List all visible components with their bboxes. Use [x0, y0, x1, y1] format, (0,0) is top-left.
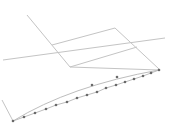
- data-point: [12, 120, 15, 123]
- data-point: [158, 69, 161, 72]
- data-point: [142, 75, 145, 78]
- data-point: [115, 84, 118, 87]
- wall-line: [2, 100, 13, 121]
- frame-lines: [3, 15, 165, 70]
- data-point: [66, 101, 69, 104]
- frame-line: [52, 28, 115, 45]
- frame-line: [3, 38, 165, 60]
- frame-line: [70, 67, 159, 70]
- data-point: [124, 81, 127, 84]
- frame-line: [115, 28, 159, 69]
- data-point: [133, 78, 136, 81]
- diagram-canvas: [0, 0, 174, 138]
- data-point: [34, 112, 37, 115]
- frame-line: [27, 15, 70, 67]
- wall-segment: [2, 100, 13, 121]
- data-point: [96, 91, 99, 94]
- data-point: [86, 94, 89, 97]
- wireframe-diagram: [0, 0, 174, 138]
- data-point: [105, 87, 108, 90]
- data-point: [76, 97, 79, 100]
- data-point: [45, 108, 48, 111]
- data-point: [23, 116, 26, 119]
- arc-point: [116, 76, 119, 79]
- lower-point-line: [12, 69, 161, 123]
- data-point: [150, 72, 153, 75]
- data-point: [55, 104, 58, 107]
- arc-point: [91, 84, 94, 87]
